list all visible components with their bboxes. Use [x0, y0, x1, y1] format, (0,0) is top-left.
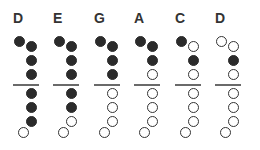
- note-label: C: [175, 10, 185, 26]
- note-column-c-4: C: [175, 0, 215, 150]
- open-hole-icon: [107, 116, 118, 127]
- note-label: D: [13, 10, 23, 26]
- open-hole-icon: [188, 69, 199, 80]
- open-hole-icon: [216, 36, 227, 47]
- open-hole-icon: [107, 88, 118, 99]
- note-column-g-2: G: [94, 0, 134, 150]
- closed-hole-icon: [107, 55, 118, 66]
- closed-hole-icon: [107, 69, 118, 80]
- closed-hole-icon: [66, 41, 77, 52]
- open-hole-icon: [147, 102, 158, 113]
- open-hole-icon: [147, 116, 158, 127]
- note-label: G: [94, 10, 105, 26]
- open-hole-icon: [147, 88, 158, 99]
- closed-hole-icon: [26, 102, 37, 113]
- closed-hole-icon: [107, 41, 118, 52]
- closed-hole-icon: [66, 69, 77, 80]
- closed-hole-icon: [14, 36, 25, 47]
- note-column-d-0: D: [13, 0, 53, 150]
- closed-hole-icon: [147, 41, 158, 52]
- closed-hole-icon: [135, 36, 146, 47]
- open-hole-icon: [180, 127, 191, 138]
- open-hole-icon: [228, 69, 239, 80]
- closed-hole-icon: [95, 36, 106, 47]
- closed-hole-icon: [147, 55, 158, 66]
- note-column-e-1: E: [53, 0, 93, 150]
- hand-divider-line: [13, 84, 39, 86]
- hand-divider-line: [134, 84, 160, 86]
- closed-hole-icon: [26, 41, 37, 52]
- open-hole-icon: [107, 102, 118, 113]
- note-column-d-5: D: [215, 0, 255, 150]
- open-hole-icon: [188, 116, 199, 127]
- closed-hole-icon: [66, 88, 77, 99]
- open-hole-icon: [99, 127, 110, 138]
- closed-hole-icon: [176, 36, 187, 47]
- note-label: E: [53, 10, 62, 26]
- hand-divider-line: [53, 84, 79, 86]
- open-hole-icon: [188, 102, 199, 113]
- open-hole-icon: [139, 127, 150, 138]
- open-hole-icon: [66, 116, 77, 127]
- note-label: D: [215, 10, 225, 26]
- open-hole-icon: [228, 41, 239, 52]
- open-hole-icon: [18, 127, 29, 138]
- open-hole-icon: [58, 127, 69, 138]
- note-column-a-3: A: [134, 0, 174, 150]
- open-hole-icon: [188, 88, 199, 99]
- open-hole-icon: [220, 127, 231, 138]
- closed-hole-icon: [66, 102, 77, 113]
- hand-divider-line: [94, 84, 120, 86]
- closed-hole-icon: [54, 36, 65, 47]
- hand-divider-line: [175, 84, 201, 86]
- closed-hole-icon: [188, 55, 199, 66]
- closed-hole-icon: [26, 116, 37, 127]
- open-hole-icon: [228, 116, 239, 127]
- closed-hole-icon: [26, 88, 37, 99]
- note-label: A: [134, 10, 144, 26]
- open-hole-icon: [228, 88, 239, 99]
- closed-hole-icon: [26, 69, 37, 80]
- open-hole-icon: [228, 102, 239, 113]
- closed-hole-icon: [66, 55, 77, 66]
- closed-hole-icon: [26, 55, 37, 66]
- closed-hole-icon: [228, 55, 239, 66]
- hand-divider-line: [215, 84, 241, 86]
- open-hole-icon: [147, 69, 158, 80]
- open-hole-icon: [188, 41, 199, 52]
